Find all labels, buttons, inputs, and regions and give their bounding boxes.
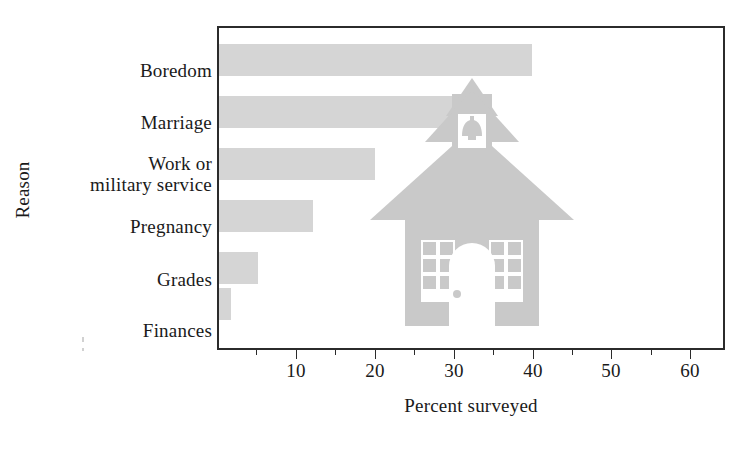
bar-pregnancy — [219, 200, 313, 232]
x-tick-minor-25 — [414, 350, 415, 355]
x-tick-label-10: 10 — [286, 360, 306, 382]
bar-grades — [219, 252, 258, 284]
scan-speck — [82, 337, 84, 342]
x-tick-label-60: 60 — [680, 360, 700, 382]
x-tick-major-50 — [611, 350, 612, 359]
scan-speck — [82, 348, 84, 351]
x-tick-minor-45 — [572, 350, 573, 355]
x-tick-minor-35 — [493, 350, 494, 355]
bar-work-or-military-service — [219, 148, 375, 180]
y-axis-tick-labels: Boredom Marriage Work or military servic… — [40, 26, 212, 350]
x-axis-tick-labels: 10 20 30 40 50 60 — [217, 360, 725, 386]
x-tick-minor-15 — [335, 350, 336, 355]
bar-boredom — [219, 44, 532, 76]
x-tick-major-20 — [375, 350, 376, 359]
y-tick-label-work-or-military-service: Work or military service — [40, 153, 212, 195]
y-tick-label-grades: Grades — [40, 269, 212, 290]
x-tick-major-40 — [533, 350, 534, 359]
x-tick-label-30: 30 — [444, 360, 464, 382]
y-tick-label-finances: Finances — [40, 320, 212, 341]
x-tick-major-10 — [296, 350, 297, 359]
x-tick-major-30 — [454, 350, 455, 359]
y-tick-label-boredom: Boredom — [40, 60, 212, 81]
bar-finances — [219, 288, 231, 320]
x-axis-title: Percent surveyed — [217, 395, 725, 417]
x-tick-minor-55 — [651, 350, 652, 355]
bar-marriage — [219, 96, 461, 128]
y-axis-title: Reason — [12, 130, 34, 250]
y-tick-label-pregnancy: Pregnancy — [40, 216, 212, 237]
x-tick-major-60 — [690, 350, 691, 359]
y-tick-label-marriage: Marriage — [40, 112, 212, 133]
x-axis-ticks — [217, 350, 725, 360]
plot-inner — [219, 28, 723, 348]
plot-area — [217, 26, 725, 350]
chart-figure: Reason Boredom Marriage Work or military… — [0, 0, 753, 449]
x-tick-label-40: 40 — [523, 360, 543, 382]
x-tick-label-20: 20 — [365, 360, 385, 382]
x-tick-minor-5 — [256, 350, 257, 355]
x-tick-label-50: 50 — [601, 360, 621, 382]
